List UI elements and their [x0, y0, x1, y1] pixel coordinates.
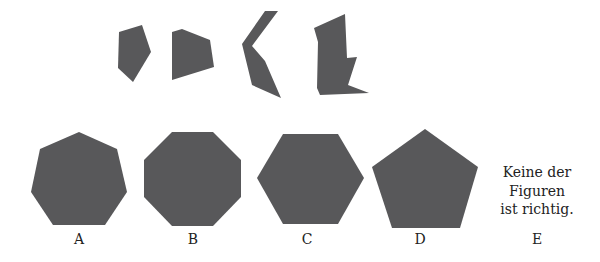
piece-1	[118, 25, 151, 82]
option-b[interactable]: B	[144, 132, 241, 247]
puzzle-figure: A B C D Keine der Figuren ist richtig. E	[0, 0, 600, 262]
piece-2	[172, 29, 214, 80]
piece-4	[314, 14, 369, 95]
pentagon-shape[interactable]	[372, 129, 478, 228]
option-c[interactable]: C	[257, 134, 364, 247]
option-a[interactable]: A	[31, 132, 127, 247]
octagon-shape[interactable]	[144, 132, 241, 226]
option-e-line-3[interactable]: ist richtig.	[500, 201, 573, 217]
option-e-line-2[interactable]: Figuren	[509, 183, 565, 199]
option-a-label: A	[73, 231, 85, 247]
piece-3	[242, 11, 281, 98]
option-b-label: B	[188, 231, 198, 247]
pieces-group	[118, 11, 369, 98]
option-d[interactable]: D	[372, 129, 478, 247]
option-e-label: E	[532, 231, 542, 247]
hexagon-shape[interactable]	[257, 134, 364, 224]
option-d-label: D	[414, 231, 425, 247]
option-c-label: C	[302, 231, 313, 247]
option-e[interactable]: Keine der Figuren ist richtig. E	[500, 164, 573, 247]
option-e-line-1[interactable]: Keine der	[503, 164, 572, 180]
heptagon-shape[interactable]	[31, 132, 127, 225]
